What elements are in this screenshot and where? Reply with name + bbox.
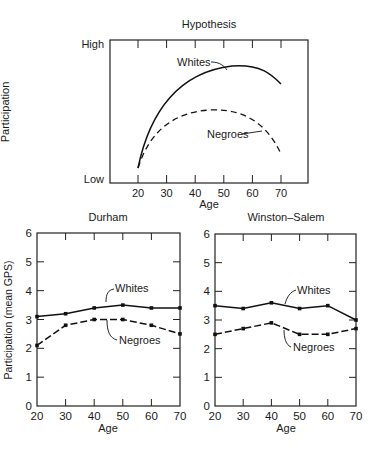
x-tick-label: 30 — [59, 410, 72, 422]
data-point — [354, 327, 358, 331]
x-tick-label: 40 — [265, 410, 278, 422]
data-point — [354, 318, 358, 322]
data-point — [213, 304, 217, 308]
y-tick-label: 1 — [204, 371, 210, 383]
durham-whites-arrow — [106, 289, 114, 302]
y-tick-label: 5 — [26, 256, 32, 268]
winston-salem-title: Winston–Salem — [247, 211, 324, 223]
hypothesis-whites-curve — [138, 66, 281, 168]
winston-salem-whites-arrow — [285, 290, 296, 304]
winston-salem-chart: Winston–Salem Age 0123456203040506070 Wh… — [204, 211, 363, 434]
durham-axes: 0123456203040506070 — [26, 227, 187, 422]
data-point — [121, 303, 125, 307]
data-point — [270, 301, 274, 305]
y-tick-label: 5 — [204, 257, 210, 269]
data-point — [150, 306, 154, 310]
data-point — [35, 315, 39, 319]
x-tick-label: 40 — [88, 410, 101, 422]
x-tick-label: 70 — [350, 410, 363, 422]
durham-title: Durham — [88, 211, 127, 223]
winston-salem-negroes-arrow — [284, 330, 291, 347]
data-point — [64, 323, 68, 327]
hypothesis-chart: Hypothesis High Low Participation Age 20… — [0, 18, 308, 210]
x-tick-label: 30 — [160, 187, 172, 199]
x-tick-label: 50 — [293, 410, 306, 422]
durham-y-axis-label: Participation (mean GPS) — [2, 260, 14, 379]
winston-salem-plot-frame — [215, 234, 356, 406]
data-point — [298, 307, 302, 311]
durham-plot-frame — [37, 233, 180, 406]
hypothesis-title: Hypothesis — [182, 18, 237, 30]
y-tick-label: 4 — [26, 285, 33, 297]
winston-salem-negroes-label: Negroes — [293, 341, 335, 353]
durham-negroes-arrow — [107, 320, 117, 340]
data-point — [213, 333, 217, 337]
x-tick-label: 60 — [321, 410, 334, 422]
hypothesis-y-axis-label: Participation — [0, 82, 11, 143]
durham-negroes-label: Negroes — [119, 334, 161, 346]
series-line-negroes — [215, 323, 356, 334]
series-line-whites — [37, 305, 180, 317]
data-point — [270, 321, 274, 325]
y-tick-label: 6 — [204, 228, 210, 240]
hypothesis-whites-label: Whites — [177, 56, 211, 68]
x-tick-label: 60 — [145, 410, 158, 422]
winston-salem-axes: 0123456203040506070 — [204, 228, 363, 422]
y-tick-label: 3 — [204, 314, 210, 326]
durham-whites-label: Whites — [115, 282, 149, 294]
y-tick-label: 6 — [26, 227, 32, 239]
y-tick-label: 2 — [26, 342, 32, 354]
x-tick-label: 40 — [189, 187, 201, 199]
data-point — [178, 332, 182, 336]
durham-x-axis-label: Age — [98, 422, 118, 434]
winston-salem-whites-label: Whites — [297, 284, 331, 296]
hypothesis-x-axis-label: Age — [199, 198, 219, 210]
y-tick-label: 2 — [204, 343, 210, 355]
x-tick-label: 50 — [116, 410, 129, 422]
data-point — [35, 344, 39, 348]
data-point — [326, 304, 330, 308]
x-tick-label: 60 — [246, 187, 258, 199]
y-tick-label: 4 — [204, 285, 211, 297]
data-point — [92, 318, 96, 322]
figure: Hypothesis High Low Participation Age 20… — [0, 0, 378, 449]
data-point — [92, 306, 96, 310]
winston-salem-lines — [213, 301, 358, 336]
y-label-high: High — [81, 38, 104, 50]
data-point — [150, 323, 154, 327]
data-point — [121, 318, 125, 322]
data-point — [326, 333, 330, 337]
y-tick-label: 3 — [26, 314, 32, 326]
winston-salem-x-axis-label: Age — [276, 422, 296, 434]
data-point — [298, 333, 302, 337]
data-point — [64, 312, 68, 316]
x-tick-label: 20 — [132, 187, 144, 199]
x-tick-label: 50 — [218, 187, 230, 199]
x-tick-label: 20 — [209, 410, 222, 422]
data-point — [241, 327, 245, 331]
x-tick-label: 70 — [275, 187, 287, 199]
data-point — [178, 306, 182, 310]
data-point — [241, 307, 245, 311]
durham-chart: Durham Participation (mean GPS) Age 0123… — [2, 211, 186, 434]
y-label-low: Low — [84, 173, 104, 185]
series-line-whites — [215, 303, 356, 320]
y-tick-label: 1 — [26, 371, 32, 383]
x-tick-label: 30 — [237, 410, 250, 422]
x-tick-label: 70 — [174, 410, 187, 422]
x-tick-label: 20 — [31, 410, 44, 422]
